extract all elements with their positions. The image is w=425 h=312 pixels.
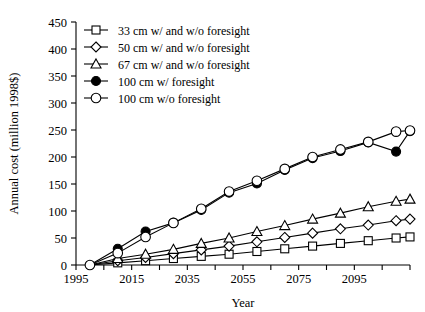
- legend-label: 33 cm w/ and w/o foresight: [118, 24, 250, 38]
- data-point: [280, 164, 290, 174]
- data-point: [309, 242, 317, 250]
- x-axis-tick-label: 2015: [119, 272, 144, 286]
- chart-container: 1995201520352055207520950501001502002503…: [0, 0, 425, 312]
- data-point: [91, 42, 101, 52]
- data-point: [91, 93, 101, 103]
- legend-label: 100 cm w/ foresight: [118, 75, 215, 89]
- data-point: [252, 176, 262, 186]
- data-point: [224, 187, 234, 197]
- series-line: [90, 131, 410, 265]
- data-point: [253, 248, 261, 256]
- data-point: [335, 224, 345, 234]
- data-point: [405, 214, 415, 224]
- data-point: [85, 260, 95, 270]
- line-chart: 1995201520352055207520950501001502002503…: [0, 0, 425, 312]
- y-axis-tick-label: 100: [48, 205, 67, 219]
- data-point: [196, 204, 206, 214]
- series-line: [90, 199, 410, 265]
- data-point: [405, 194, 415, 203]
- data-point: [336, 239, 344, 247]
- data-point: [308, 152, 318, 162]
- x-axis-tick-label: 2075: [286, 272, 311, 286]
- x-axis-title: Year: [231, 296, 255, 310]
- y-axis-tick-label: 300: [48, 97, 67, 111]
- data-point: [169, 218, 179, 228]
- data-point: [224, 241, 234, 251]
- y-axis-tick-label: 400: [48, 43, 67, 57]
- y-axis-tick-label: 150: [48, 178, 67, 192]
- x-axis-tick-label: 2035: [175, 272, 200, 286]
- data-point: [405, 126, 415, 136]
- y-axis-tick-label: 350: [48, 70, 67, 84]
- data-point: [391, 127, 401, 137]
- data-point: [336, 145, 346, 155]
- y-axis-tick-label: 250: [48, 124, 67, 138]
- data-point: [281, 245, 289, 253]
- y-axis-tick-label: 450: [48, 16, 67, 30]
- data-point: [364, 237, 372, 245]
- data-point: [92, 26, 100, 34]
- y-axis-tick-label: 200: [48, 151, 67, 165]
- legend-label: 67 cm w/ and w/o foresight: [118, 58, 250, 72]
- x-axis-tick-label: 1995: [64, 272, 89, 286]
- series-line: [90, 219, 410, 265]
- x-axis-tick-label: 2055: [231, 272, 256, 286]
- data-point: [363, 137, 373, 147]
- data-point: [308, 228, 318, 238]
- data-point: [392, 234, 400, 242]
- data-point: [252, 237, 262, 247]
- data-point: [280, 232, 290, 242]
- legend-label: 50 cm w/ and w/o foresight: [118, 41, 250, 55]
- data-point: [392, 147, 401, 156]
- y-axis-tick-label: 50: [55, 232, 68, 246]
- legend-label: 100 cm w/o foresight: [118, 92, 221, 106]
- data-point: [113, 248, 123, 258]
- data-point: [406, 233, 414, 241]
- y-axis-title: Annual cost (million 1998$): [7, 73, 21, 215]
- data-point: [391, 216, 401, 226]
- data-point: [141, 232, 151, 242]
- data-point: [363, 220, 373, 230]
- series-line: [90, 131, 410, 265]
- y-axis-tick-label: 0: [61, 259, 67, 273]
- x-axis-tick-label: 2095: [342, 272, 367, 286]
- data-point: [92, 77, 101, 86]
